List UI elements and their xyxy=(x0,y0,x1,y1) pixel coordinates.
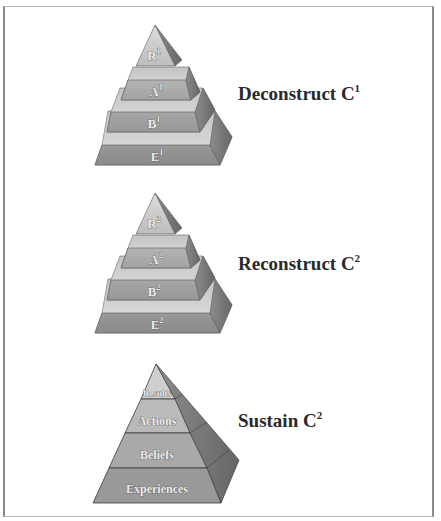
pyramid-shape xyxy=(95,193,232,333)
stage-label-superscript: 1 xyxy=(355,82,361,94)
stage-label-text: Reconstruct C xyxy=(238,253,355,274)
pyramid-diagram: R1 A1 B1 E1 R2 A2 B2 E2 Results Actions … xyxy=(0,0,441,521)
pyramid-sustain: Results Actions Beliefs Experiences xyxy=(93,364,239,503)
tier-label-results: Results xyxy=(143,388,171,398)
stage-label-sustain: Sustain C2 xyxy=(238,411,322,430)
tier-label-actions: Actions xyxy=(138,414,177,428)
stage-label-text: Sustain C xyxy=(238,410,317,431)
pyramid-reconstruct: R2 A2 B2 E2 xyxy=(95,193,232,333)
stage-label-deconstruct: Deconstruct C1 xyxy=(238,84,360,103)
stage-label-superscript: 2 xyxy=(355,252,361,264)
tier-label-beliefs: Beliefs xyxy=(140,448,174,462)
pyramid-deconstruct: R1 A1 B1 E1 xyxy=(95,25,232,165)
stage-label-superscript: 2 xyxy=(317,409,323,421)
pyramid-shape xyxy=(95,25,232,165)
tier-label-experiences: Experiences xyxy=(126,482,188,496)
stage-label-reconstruct: Reconstruct C2 xyxy=(238,254,360,273)
stage-label-text: Deconstruct C xyxy=(238,83,355,104)
